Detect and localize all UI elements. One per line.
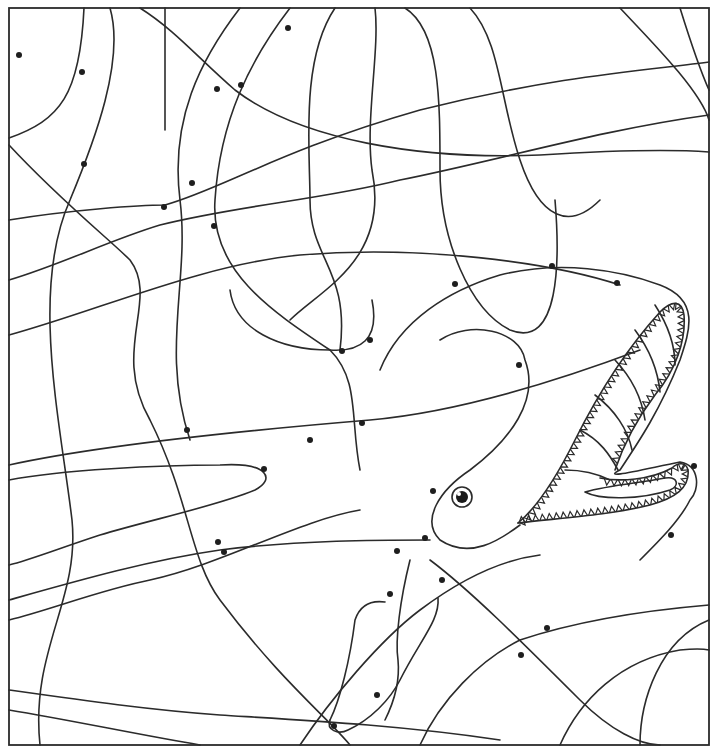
color-dot xyxy=(214,86,220,92)
background-line xyxy=(9,350,640,465)
color-dot xyxy=(16,52,22,58)
color-dot xyxy=(516,362,522,368)
background-line xyxy=(9,710,200,745)
color-dot xyxy=(184,427,190,433)
color-dot xyxy=(79,69,85,75)
page-border xyxy=(9,8,709,745)
color-dot xyxy=(211,223,217,229)
color-dot xyxy=(215,539,221,545)
upper-jaw xyxy=(518,303,684,523)
color-dot xyxy=(394,548,400,554)
background-line xyxy=(309,8,342,350)
color-dot xyxy=(430,488,436,494)
background-line xyxy=(640,620,709,745)
shark-line xyxy=(230,290,374,350)
shark-mouth xyxy=(518,303,689,525)
background-line xyxy=(39,8,114,745)
color-dot xyxy=(367,337,373,343)
color-dot xyxy=(422,535,428,541)
color-dot xyxy=(221,549,227,555)
color-dot xyxy=(544,625,550,631)
shark-line xyxy=(385,560,410,720)
background-line xyxy=(290,8,376,320)
color-dot xyxy=(359,420,365,426)
background-line xyxy=(420,605,709,745)
background-line xyxy=(9,145,350,745)
color-dot xyxy=(691,463,697,469)
color-dot xyxy=(238,82,244,88)
background-line xyxy=(9,252,620,335)
color-dot xyxy=(668,532,674,538)
throat-rib xyxy=(635,330,660,392)
background-line xyxy=(405,8,557,333)
background-line xyxy=(9,8,84,138)
color-dot xyxy=(614,280,620,286)
color-dot xyxy=(374,692,380,698)
color-dot xyxy=(189,180,195,186)
color-dot xyxy=(307,437,313,443)
color-dot xyxy=(81,161,87,167)
background-line xyxy=(215,8,360,470)
background-line xyxy=(680,8,709,90)
background-line xyxy=(430,560,660,745)
background-line xyxy=(560,649,709,745)
shark-line xyxy=(329,598,438,732)
color-dot xyxy=(339,348,345,354)
eye-highlight xyxy=(457,492,461,496)
background-line xyxy=(300,555,540,745)
background-line xyxy=(9,465,266,565)
color-dot xyxy=(549,263,555,269)
background-line xyxy=(470,8,600,216)
color-dot xyxy=(387,591,393,597)
color-dot xyxy=(452,281,458,287)
color-dot xyxy=(161,204,167,210)
coloring-page xyxy=(0,0,719,751)
background-line xyxy=(176,8,240,440)
color-dot xyxy=(331,723,337,729)
shark-eye-icon xyxy=(452,487,472,507)
throat-rib xyxy=(580,430,618,470)
artwork xyxy=(0,0,719,751)
background-lines xyxy=(9,8,709,745)
color-dot xyxy=(261,466,267,472)
color-dot xyxy=(439,577,445,583)
color-dot xyxy=(285,25,291,31)
color-dot xyxy=(518,652,524,658)
teeth xyxy=(519,303,685,525)
shark-line xyxy=(380,268,697,560)
shark-line xyxy=(330,602,385,720)
shark-line xyxy=(432,330,529,549)
